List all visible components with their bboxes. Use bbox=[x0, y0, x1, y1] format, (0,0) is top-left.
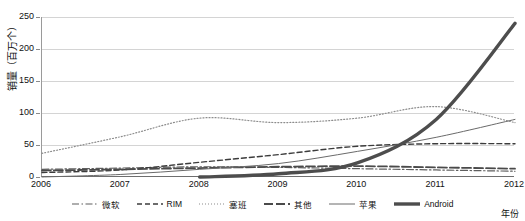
legend-swatch-icon bbox=[72, 199, 98, 209]
y-tick-label: 100 bbox=[19, 107, 34, 117]
legend-label: 其他 bbox=[294, 198, 312, 210]
legend-item[interactable]: 塞班 bbox=[199, 198, 247, 210]
legend-swatch-icon bbox=[329, 199, 355, 209]
y-tick-mark bbox=[36, 49, 40, 50]
plot-area bbox=[41, 17, 514, 177]
legend-label: Android bbox=[424, 199, 453, 209]
legend-label: 微软 bbox=[102, 198, 120, 210]
y-tick-mark bbox=[36, 113, 40, 114]
legend-item[interactable]: 微软 bbox=[72, 198, 120, 210]
x-tick-label: 2006 bbox=[31, 179, 51, 189]
legend-item[interactable]: 苹果 bbox=[329, 198, 377, 210]
legend-swatch-icon bbox=[394, 199, 420, 209]
legend-item[interactable]: 其他 bbox=[264, 198, 312, 210]
legend-swatch-icon bbox=[199, 199, 225, 209]
legend-swatch-icon bbox=[264, 199, 290, 209]
x-tick-label: 2008 bbox=[189, 179, 209, 189]
chart-title bbox=[180, 0, 380, 4]
x-tick-label: 2007 bbox=[110, 179, 130, 189]
y-tick-label: 150 bbox=[19, 75, 34, 85]
y-tick-mark bbox=[36, 177, 40, 178]
chart-legend: 微软RIM塞班其他苹果Android bbox=[0, 196, 525, 212]
x-tick-label: 2009 bbox=[267, 179, 287, 189]
y-tick-mark bbox=[36, 17, 40, 18]
x-tick-label: 2012 bbox=[504, 179, 524, 189]
y-tick-label: 200 bbox=[19, 43, 34, 53]
y-tick-label: 50 bbox=[24, 139, 34, 149]
x-tick-label: 2010 bbox=[346, 179, 366, 189]
legend-swatch-icon bbox=[137, 199, 163, 209]
y-tick-mark bbox=[36, 81, 40, 82]
legend-label: RIM bbox=[167, 199, 183, 209]
x-tick-label: 2011 bbox=[425, 179, 444, 189]
y-tick-mark bbox=[36, 145, 40, 146]
y-tick-label: 250 bbox=[19, 11, 34, 21]
legend-label: 塞班 bbox=[229, 198, 247, 210]
y-axis-ticks: 050100150200250 bbox=[0, 17, 38, 177]
series-lines bbox=[42, 17, 515, 177]
sales-line-chart: 销量（百万个） 050100150200250 2006200720082009… bbox=[0, 0, 525, 221]
series-line bbox=[200, 23, 515, 177]
x-axis-ticks: 2006200720082009201020112012 bbox=[41, 178, 514, 192]
legend-item[interactable]: Android bbox=[394, 199, 453, 209]
legend-item[interactable]: RIM bbox=[137, 199, 183, 209]
legend-label: 苹果 bbox=[359, 198, 377, 210]
